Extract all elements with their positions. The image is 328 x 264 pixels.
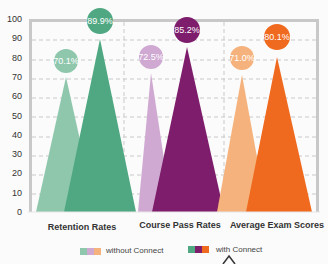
category-label: Average Exam Scores bbox=[222, 220, 328, 230]
legend-swatch-without bbox=[80, 248, 87, 255]
value-label: 89.9% bbox=[87, 16, 113, 26]
category-label: Retention Rates bbox=[27, 222, 137, 232]
value-label: 71.0% bbox=[229, 53, 255, 63]
value-label: 72.5% bbox=[138, 52, 164, 62]
legend-swatch-with bbox=[195, 246, 202, 253]
value-label: 85.2% bbox=[174, 25, 200, 35]
legend-label-with: with Connect bbox=[216, 245, 262, 254]
caret-icon bbox=[223, 256, 235, 264]
value-label: 80.1% bbox=[264, 32, 290, 42]
category-label: Course Pass Rates bbox=[125, 220, 235, 230]
bar-coursepass-with bbox=[152, 47, 224, 212]
legend-swatch-without bbox=[94, 248, 101, 255]
legend-swatch-without bbox=[87, 248, 94, 255]
legend-swatch-with bbox=[202, 246, 209, 253]
legend-label-without: without Connect bbox=[106, 246, 163, 255]
legend-swatch-with bbox=[188, 246, 195, 253]
bar-exam-with bbox=[246, 57, 312, 212]
value-label: 70.1% bbox=[53, 56, 79, 66]
